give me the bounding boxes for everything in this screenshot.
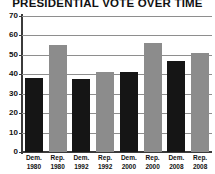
chart-title: PRESIDENTIAL VOTE OVER TIME — [0, 0, 215, 10]
x-label-year: 2008 — [188, 163, 212, 172]
x-label-party: Rep. — [188, 154, 212, 163]
x-label-year: 1980 — [46, 163, 70, 172]
y-tick-label: 20 — [0, 109, 18, 117]
bar — [120, 72, 138, 152]
x-tick-label: Dem.1980 — [22, 154, 46, 171]
bar — [144, 43, 162, 152]
bar — [72, 79, 90, 152]
x-tick-label: Rep.1980 — [46, 154, 70, 171]
x-label-year: 1980 — [22, 163, 46, 172]
x-label-party: Dem. — [165, 154, 189, 163]
x-tick-label: Dem.2000 — [117, 154, 141, 171]
y-tick-label: 50 — [0, 51, 18, 59]
x-tick-label: Dem.2008 — [165, 154, 189, 171]
x-label-party: Rep. — [141, 154, 165, 163]
x-label-party: Rep. — [93, 154, 117, 163]
bar — [25, 78, 43, 152]
x-label-year: 2008 — [165, 163, 189, 172]
bar — [49, 45, 67, 152]
x-label-year: 1992 — [70, 163, 94, 172]
x-label-party: Dem. — [22, 154, 46, 163]
x-label-year: 2000 — [141, 163, 165, 172]
y-tick-label: 60 — [0, 31, 18, 39]
x-label-party: Dem. — [117, 154, 141, 163]
x-label-year: 1992 — [93, 163, 117, 172]
bar — [167, 61, 185, 152]
bar-series — [22, 16, 212, 152]
y-tick-label: 30 — [0, 90, 18, 98]
bar — [96, 72, 114, 152]
y-tick-label: 40 — [0, 70, 18, 78]
x-axis-labels: Dem.1980Rep.1980Dem.1992Rep.1992Dem.2000… — [22, 154, 212, 174]
x-tick-label: Rep.2008 — [188, 154, 212, 171]
bar — [191, 53, 209, 152]
x-label-year: 2000 — [117, 163, 141, 172]
y-tick-label: 70 — [0, 12, 18, 20]
y-tick-label: 10 — [0, 129, 18, 137]
x-tick-label: Rep.2000 — [141, 154, 165, 171]
x-label-party: Dem. — [70, 154, 94, 163]
y-tick-label: 0 — [0, 148, 18, 156]
chart-screenshot: PRESIDENTIAL VOTE OVER TIME 706050403020… — [0, 0, 215, 174]
x-tick-label: Dem.1992 — [70, 154, 94, 171]
x-label-party: Rep. — [46, 154, 70, 163]
y-tick-mark — [19, 152, 22, 153]
x-tick-label: Rep.1992 — [93, 154, 117, 171]
